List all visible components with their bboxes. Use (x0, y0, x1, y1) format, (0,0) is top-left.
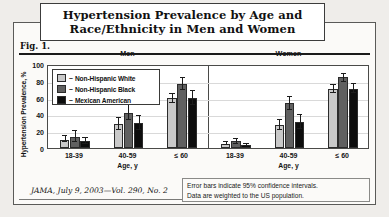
legend-item-non-hispanic-black: – Non-Hispanic Black (57, 84, 159, 94)
x-tick-label: 40-59 (262, 152, 316, 159)
y-tick-80: 80 (36, 78, 44, 85)
error-bar-cap-lower (223, 144, 228, 145)
bar (338, 77, 348, 148)
bar-group (263, 66, 317, 148)
legend-swatch-non-hispanic-white (57, 74, 66, 82)
error-bar-cap-lower (116, 129, 121, 130)
legend-item-mexican-american: – Mexican American (57, 95, 159, 105)
error-bar-cap-upper (297, 114, 302, 115)
bar (177, 84, 187, 148)
figure-title-box: Hypertension Prevalence by Age and Race/… (40, 3, 325, 41)
error-bar-cap-lower (351, 92, 356, 93)
error-bar (300, 115, 301, 128)
error-bar-cap-lower (233, 143, 238, 144)
bar-group (155, 66, 209, 148)
y-tick-100: 100 (32, 62, 44, 69)
error-bar-cap-upper (169, 93, 174, 94)
legend-dash-2: – (69, 96, 73, 104)
chart-legend: – Non-Hispanic White – Non-Hispanic Blac… (52, 69, 160, 105)
error-bar-cap-upper (277, 119, 282, 120)
error-bar-cap-lower (330, 92, 335, 93)
legend-item-non-hispanic-white: – Non-Hispanic White (57, 73, 159, 83)
legend-swatch-non-hispanic-black (57, 85, 66, 93)
error-bar-cap-lower (169, 102, 174, 103)
error-bar-cap-upper (287, 96, 292, 97)
error-bar-cap-lower (277, 129, 282, 130)
error-bar-cap-upper (341, 73, 346, 74)
journal-citation: JAMA, July 9, 2003—Vol. 290, No. 2 (31, 186, 168, 195)
y-tick-0: 0 (40, 146, 44, 153)
legend-dash-1: – (69, 85, 73, 93)
error-bar-cap-lower (72, 141, 77, 142)
y-tick-40: 40 (36, 112, 44, 119)
footnote-box: Error bars indicate 95% confidence inter… (182, 178, 370, 202)
bar-group (209, 66, 263, 148)
y-axis-title-text: Hypertension Prevalence, % (21, 71, 28, 157)
error-bar-cap-lower (180, 89, 185, 90)
error-bar-cap-lower (190, 104, 195, 105)
figure-number-label: Fig. 1. (20, 41, 50, 51)
error-bar-cap-lower (341, 81, 346, 82)
y-axis-tick-labels: 100806040200 (31, 65, 46, 149)
error-bar-cap-upper (233, 138, 238, 139)
bar (328, 89, 338, 148)
figure-title-line-2: Race/Ethnicity in Men and Women (70, 22, 296, 36)
x-tick-label: 40-59 (101, 152, 155, 159)
error-bar-cap-lower (126, 119, 131, 120)
error-bar-cap-upper (72, 130, 77, 131)
y-tick-60: 60 (36, 95, 44, 102)
x-tick-label: 18-39 (47, 152, 101, 159)
footnote-line-2: Data are weighted to the US population. (187, 191, 365, 201)
x-tick-label: ≤ 60 (154, 152, 208, 159)
error-bar-cap-lower (287, 109, 292, 110)
legend-label-non-hispanic-white: Non-Hispanic White (75, 75, 135, 82)
error-bar-cap-lower (243, 145, 248, 146)
bar (188, 98, 198, 148)
error-bar (289, 97, 290, 110)
y-tick-20: 20 (36, 129, 44, 136)
x-tick-label: ≤ 60 (315, 152, 369, 159)
x-tick-label: 18-39 (208, 152, 262, 159)
figure-title-line-1: Hypertension Prevalence by Age and (63, 8, 303, 22)
legend-swatch-mexican-american (57, 96, 66, 104)
error-bar-cap-lower (62, 141, 67, 142)
error-bar-cap-lower (297, 128, 302, 129)
x-axis-title: Age, y (208, 162, 369, 169)
error-bar-cap-upper (243, 143, 248, 144)
footnote-line-1: Error bars indicate 95% confidence inter… (187, 181, 365, 191)
figure-header-rule (19, 53, 370, 55)
error-bar-cap-lower (136, 129, 141, 130)
error-bar-cap-lower (82, 143, 87, 144)
error-bar-cap-upper (180, 77, 185, 78)
figure-screenshot: Hypertension Prevalence by Age and Race/… (0, 0, 389, 217)
error-bar (139, 116, 140, 129)
bar (349, 89, 359, 148)
error-bar (128, 105, 129, 120)
error-bar-cap-upper (82, 137, 87, 138)
x-axis-title: Age, y (47, 162, 208, 169)
error-bar-cap-upper (190, 90, 195, 91)
bar-group (316, 66, 370, 148)
chart-area: Hypertension Prevalence, % 100806040200 … (19, 57, 371, 172)
bar (167, 98, 177, 148)
legend-dash-0: – (69, 74, 73, 82)
error-bar-cap-upper (351, 83, 356, 84)
error-bar-cap-upper (136, 115, 141, 116)
error-bar-cap-upper (223, 141, 228, 142)
error-bar-cap-upper (62, 135, 67, 136)
legend-label-mexican-american: Mexican American (75, 97, 131, 104)
error-bar (192, 91, 193, 105)
panel-women (209, 66, 370, 148)
error-bar-cap-upper (116, 117, 121, 118)
y-axis-title: Hypertension Prevalence, % (17, 65, 31, 163)
error-bar-cap-upper (330, 84, 335, 85)
legend-label-non-hispanic-black: Non-Hispanic Black (75, 86, 135, 93)
